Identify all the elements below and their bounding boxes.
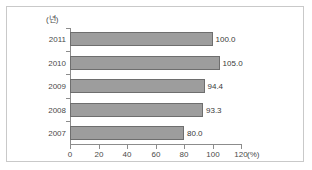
plot-area: (년) 0 20 40 60 80 100 120 (%) 2011 2010 … (0, 0, 312, 170)
bar-value-2010: 105.0 (223, 59, 243, 68)
x-axis-tick-label: 40 (123, 150, 132, 159)
x-axis-tick-label: 20 (95, 150, 104, 159)
category-label-2007: 2007 (48, 129, 66, 138)
bar-value-2008: 93.3 (206, 106, 222, 115)
x-axis-tick-label: 100 (206, 150, 219, 159)
x-axis-tick-label: 80 (180, 150, 189, 159)
bar-2010 (70, 56, 220, 70)
bar-value-2007: 80.0 (187, 129, 203, 138)
bar-value-2009: 94.4 (208, 82, 224, 91)
chart-figure: (년) 0 20 40 60 80 100 120 (%) 2011 2010 … (0, 0, 312, 170)
x-axis-tick-label: 60 (152, 150, 161, 159)
bar-2008 (70, 103, 203, 117)
x-axis-tick (213, 145, 214, 149)
y-axis-tick (66, 98, 70, 99)
bar-value-2011: 100.0 (216, 35, 236, 44)
x-axis-tick (184, 145, 185, 149)
y-axis-tick (66, 51, 70, 52)
x-axis-tick (241, 145, 242, 149)
x-axis-tick-label: 120 (234, 150, 247, 159)
category-label-2008: 2008 (48, 106, 66, 115)
x-axis-tick (70, 145, 71, 149)
x-axis-tick (99, 145, 100, 149)
y-axis-tick (66, 121, 70, 122)
x-axis-tick (156, 145, 157, 149)
x-axis-tick-label: 0 (68, 150, 72, 159)
x-axis-tick (127, 145, 128, 149)
y-axis-tick (66, 74, 70, 75)
bar-2007 (70, 126, 184, 140)
category-label-2010: 2010 (48, 59, 66, 68)
y-axis-tick (66, 28, 70, 29)
category-label-2009: 2009 (48, 82, 66, 91)
y-axis-unit-label: (년) (46, 13, 58, 24)
x-axis-unit-label: (%) (247, 150, 259, 159)
category-label-2011: 2011 (49, 35, 66, 44)
bar-2011 (70, 32, 213, 46)
bar-2009 (70, 79, 205, 93)
